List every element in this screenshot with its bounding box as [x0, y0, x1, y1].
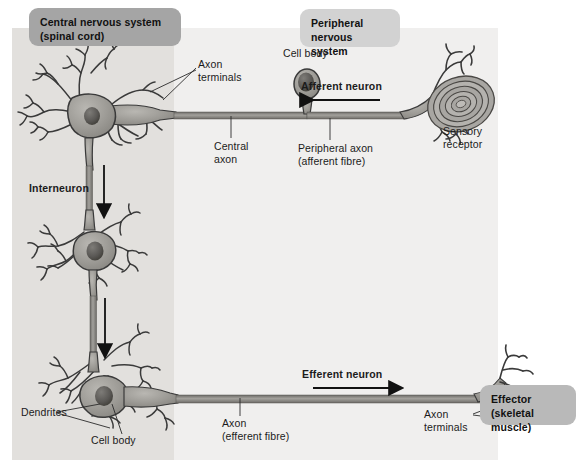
label-cell-body-motor: Cell body — [91, 434, 136, 447]
label-axon-terminals-top: Axon terminals — [198, 58, 242, 84]
label-sensory-receptor: Sensory receptor — [443, 125, 482, 151]
label-afferent-neuron: Afferent neuron — [301, 80, 382, 93]
peripheral-axon-shaft — [307, 112, 407, 119]
label-efferent-neuron: Efferent neuron — [302, 368, 382, 381]
motor-nucleus — [95, 386, 113, 406]
label-line: Central — [214, 140, 249, 153]
interneuron-descending-axon — [89, 270, 97, 300]
label-line: axon — [214, 153, 249, 166]
interneuron-nucleus — [87, 242, 104, 261]
label-line: (afferent fibre) — [298, 155, 373, 168]
label-line: receptor — [443, 138, 482, 151]
nucleus-top — [84, 107, 100, 125]
label-line: Axon — [424, 408, 468, 421]
label-peripheral-axon: Peripheral axon (afferent fibre) — [298, 142, 373, 168]
central-axon-group — [174, 112, 307, 119]
label-cell-body-ganglion: Cell body — [283, 47, 328, 60]
label-line: Axon — [198, 58, 242, 71]
label-line: (efferent fibre) — [222, 430, 289, 443]
label-line: terminals — [198, 71, 242, 84]
label-central-axon: Central axon — [214, 140, 249, 166]
descending-axon-top — [85, 138, 93, 170]
label-line: Peripheral axon — [298, 142, 373, 155]
effector-title-box: Effector (skeletal muscle) — [480, 385, 576, 425]
reflex-arc-figure: Central nervous system (spinal cord) Per… — [0, 0, 581, 473]
label-line: Axon — [222, 417, 289, 430]
label-line: Sensory — [443, 125, 482, 138]
efferent-axon-shaft — [176, 395, 482, 403]
motor-entry-axon — [88, 352, 99, 372]
interneuron-axon-shaft — [90, 296, 97, 356]
label-axon-efferent: Axon (efferent fibre) — [222, 417, 289, 443]
cns-title-box: Central nervous system (spinal cord) — [29, 8, 181, 46]
label-axon-terminals-bottom: Axon terminals — [424, 408, 468, 434]
interneuron-upper-axon — [84, 210, 95, 230]
pns-title-box: Peripheral nervous system — [300, 9, 400, 47]
label-line: terminals — [424, 421, 468, 434]
central-axon-shaft — [174, 112, 307, 119]
label-interneuron: Interneuron — [29, 182, 89, 195]
label-dendrites: Dendrites — [21, 406, 67, 419]
